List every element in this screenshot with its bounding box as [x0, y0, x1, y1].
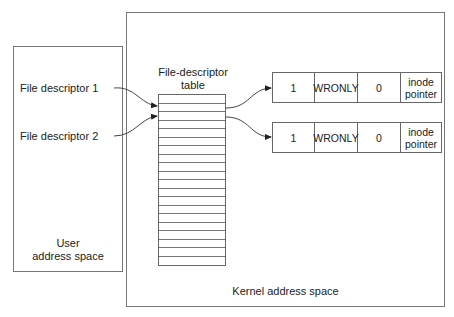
arrow-row1-to-entry1 — [226, 88, 271, 108]
arrows — [0, 0, 454, 317]
arrow-fd2-to-table — [114, 116, 157, 136]
arrow-row2-to-entry2 — [226, 117, 271, 137]
arrow-fd1-to-table — [114, 88, 157, 106]
